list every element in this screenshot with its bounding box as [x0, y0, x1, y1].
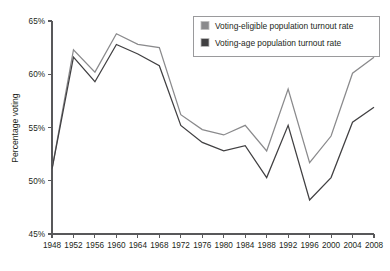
- x-axis: 1948195219561960196419681972197619801984…: [43, 234, 384, 250]
- legend: Voting-eligible population turnout rateV…: [194, 17, 380, 57]
- series-line-2: [52, 44, 374, 199]
- y-axis-ticks: [48, 21, 52, 234]
- data-series-group: [52, 34, 374, 200]
- x-axis-tick-label: 1960: [107, 241, 126, 250]
- y-axis: 45%50%55%60%65% Percentage voting: [10, 17, 52, 239]
- x-axis-tick-label: 2008: [365, 241, 384, 250]
- y-axis-tick-label: 50%: [29, 177, 45, 186]
- y-axis-tick-label: 55%: [29, 124, 45, 133]
- x-axis-tick-label: 2004: [343, 241, 362, 250]
- x-axis-tick-label: 1948: [43, 241, 62, 250]
- x-axis-ticks: [52, 234, 374, 238]
- x-axis-tick-labels: 1948195219561960196419681972197619801984…: [43, 241, 384, 250]
- x-axis-tick-label: 1956: [86, 241, 105, 250]
- chart-container: 45%50%55%60%65% Percentage voting 194819…: [0, 0, 390, 271]
- y-axis-tick-label: 65%: [29, 17, 45, 26]
- x-axis-tick-label: 1988: [258, 241, 277, 250]
- x-axis-tick-label: 1992: [279, 241, 298, 250]
- x-axis-tick-label: 1984: [236, 241, 255, 250]
- y-axis-tick-labels: 45%50%55%60%65%: [29, 17, 45, 239]
- y-axis-title: Percentage voting: [10, 93, 20, 162]
- x-axis-tick-label: 1968: [150, 241, 169, 250]
- x-axis-tick-label: 1972: [172, 241, 191, 250]
- x-axis-tick-label: 2000: [322, 241, 341, 250]
- y-axis-tick-label: 60%: [29, 70, 45, 79]
- legend-swatch-1: [201, 22, 209, 30]
- legend-label-1: Voting-eligible population turnout rate: [215, 21, 354, 31]
- x-axis-tick-label: 1976: [193, 241, 212, 250]
- y-axis-tick-label: 45%: [29, 230, 45, 239]
- line-chart: 45%50%55%60%65% Percentage voting 194819…: [0, 0, 390, 271]
- x-axis-tick-label: 1964: [129, 241, 148, 250]
- legend-label-2: Voting-age population turnout rate: [215, 38, 342, 48]
- legend-swatch-2: [201, 39, 209, 47]
- x-axis-tick-label: 1980: [215, 241, 234, 250]
- x-axis-tick-label: 1952: [64, 241, 83, 250]
- x-axis-tick-label: 1996: [300, 241, 319, 250]
